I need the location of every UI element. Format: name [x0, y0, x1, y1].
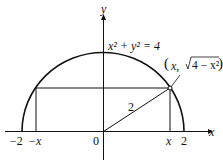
point-label-close-paren: ): [218, 56, 223, 71]
tick-neg-2: −2: [10, 135, 23, 147]
tick-neg-x: −x: [28, 135, 41, 147]
tick-two: 2: [181, 135, 187, 147]
tick-x: x: [166, 135, 171, 147]
x-axis-label: x: [209, 126, 214, 138]
radius-label: 2: [128, 101, 134, 113]
point-label-radicand: 4 − x²: [192, 60, 219, 72]
tick-zero: 0: [93, 135, 99, 147]
y-axis-label: y: [101, 3, 106, 15]
equation-label: x² + y² = 4: [108, 40, 160, 52]
leader-line: [171, 75, 180, 87]
semicircle-diagram: y x x² + y² = 4 ( x, 4 − x² ) 2 −2 −x 0 …: [0, 0, 223, 164]
radius-line: [104, 88, 171, 132]
point-label-x: x,: [171, 60, 179, 72]
point-label-open-paren: (: [164, 56, 169, 71]
